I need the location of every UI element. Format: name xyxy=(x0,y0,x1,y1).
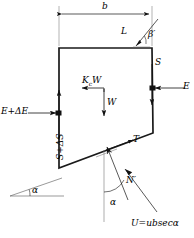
width-dimension-b xyxy=(59,6,152,46)
left-normal-vector-E-delta-E xyxy=(28,111,62,116)
base-angle-alpha-indicator xyxy=(104,150,124,222)
label-left-normal-E-delta-E: E+ΔE xyxy=(1,107,28,116)
base-shear-vector-T xyxy=(106,140,133,150)
seismic-force-vector xyxy=(82,88,104,92)
label-base-shear-T: T xyxy=(133,135,139,144)
diagram-canvas xyxy=(0,0,194,238)
label-width-b: b xyxy=(102,2,108,11)
base-normal-vector-N xyxy=(96,147,128,200)
label-weight-W: W xyxy=(107,98,116,107)
label-pore-pressure-U: U=ubsecα xyxy=(131,219,179,228)
seismic-K: K xyxy=(82,75,89,85)
label-base-normal-N-prime: N′ xyxy=(126,176,136,185)
label-seismic-force: KcW xyxy=(82,76,101,87)
label-left-shear-S-delta-S: S+ΔS xyxy=(56,134,65,160)
label-right-normal-E: E xyxy=(183,82,190,91)
label-load-L: L xyxy=(121,27,127,36)
right-normal-vector-E xyxy=(150,86,186,91)
seismic-W: W xyxy=(92,75,101,85)
label-slope-angle-alpha: α xyxy=(32,186,38,195)
label-base-angle-alpha: α xyxy=(110,198,116,207)
label-right-shear-S: S xyxy=(155,58,161,67)
slice-free-body-diagram: b L β′ KcW W S E E+ΔE S+ΔS T N′ α U=ubse… xyxy=(0,0,194,238)
label-angle-beta-prime: β′ xyxy=(148,30,155,39)
